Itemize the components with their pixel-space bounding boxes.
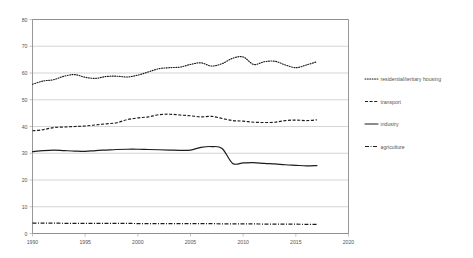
x-tick-label: 2015	[290, 239, 302, 245]
y-tick-label: 20	[22, 177, 28, 183]
y-tick-label: 10	[22, 204, 28, 210]
x-axis-ticks: 1990199520002005201020152020	[27, 234, 355, 246]
y-tick-label: 80	[22, 17, 28, 23]
y-tick-label: 30	[22, 150, 28, 156]
y-tick-label: 60	[22, 70, 28, 76]
x-tick-label: 2000	[132, 239, 144, 245]
chart-container: 01020304050607080 1990199520002005201020…	[0, 0, 473, 258]
chart-legend: residential/tertiary housingtransportind…	[365, 76, 441, 150]
x-tick-label: 2010	[237, 239, 249, 245]
x-tick-label: 2020	[343, 239, 355, 245]
x-tick-label: 2005	[185, 239, 197, 245]
data-series	[33, 57, 317, 225]
y-tick-label: 50	[22, 97, 28, 103]
y-tick-label: 70	[22, 43, 28, 49]
y-tick-label: 40	[22, 124, 28, 130]
line-chart: 01020304050607080 1990199520002005201020…	[0, 0, 473, 258]
legend-label-transport: transport	[381, 99, 402, 105]
series-line-industry	[33, 146, 317, 165]
y-axis-ticks: 01020304050607080	[22, 17, 33, 237]
x-tick-label: 1990	[27, 239, 39, 245]
x-tick-label: 1995	[79, 239, 91, 245]
y-tick-label: 0	[25, 231, 28, 237]
series-line-agriculture	[33, 223, 317, 224]
legend-label-industry: industry	[381, 121, 400, 127]
series-line-transport	[33, 114, 317, 131]
legend-label-residential-tertiary-housing: residential/tertiary housing	[381, 76, 442, 82]
series-line-residential-tertiary-housing	[33, 57, 317, 85]
legend-label-agriculture: agriculture	[381, 144, 405, 150]
